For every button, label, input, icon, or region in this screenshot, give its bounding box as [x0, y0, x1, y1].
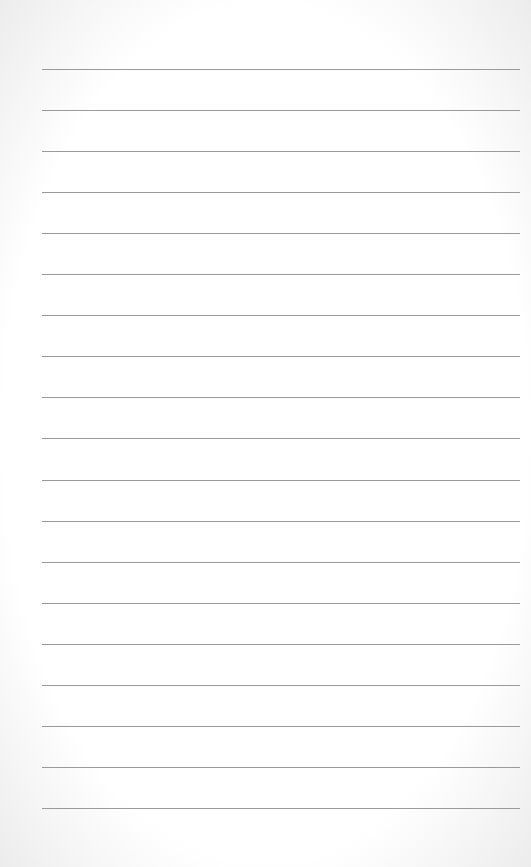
- ruled-line: [42, 521, 520, 522]
- ruled-line: [42, 480, 520, 481]
- ruled-line: [42, 192, 520, 193]
- ruled-line: [42, 315, 520, 316]
- ruled-line: [42, 274, 520, 275]
- ruled-line: [42, 685, 520, 686]
- ruled-line: [42, 110, 520, 111]
- ruled-line: [42, 151, 520, 152]
- ruled-line: [42, 562, 520, 563]
- ruled-line: [42, 438, 520, 439]
- ruled-line: [42, 69, 520, 70]
- ruled-line: [42, 808, 520, 809]
- ruled-line: [42, 397, 520, 398]
- ruled-line: [42, 603, 520, 604]
- lined-paper-sheet: [0, 0, 531, 867]
- ruled-line: [42, 767, 520, 768]
- ruled-line: [42, 233, 520, 234]
- ruled-line: [42, 644, 520, 645]
- ruled-line: [42, 726, 520, 727]
- ruled-line: [42, 356, 520, 357]
